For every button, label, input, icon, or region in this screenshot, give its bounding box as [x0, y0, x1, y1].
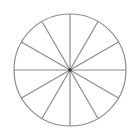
center-point — [68, 68, 72, 72]
sector-divider-line — [22, 42, 71, 70]
sector-divider-line — [70, 70, 98, 119]
sector-divider-line — [42, 22, 70, 71]
sector-divider-line — [70, 42, 119, 70]
sector-divider-line — [42, 70, 70, 119]
sector-divider-line — [22, 70, 71, 98]
sector-divider-line — [70, 22, 98, 71]
divided-circle-diagram — [0, 0, 129, 134]
sector-divider-line — [70, 70, 119, 98]
